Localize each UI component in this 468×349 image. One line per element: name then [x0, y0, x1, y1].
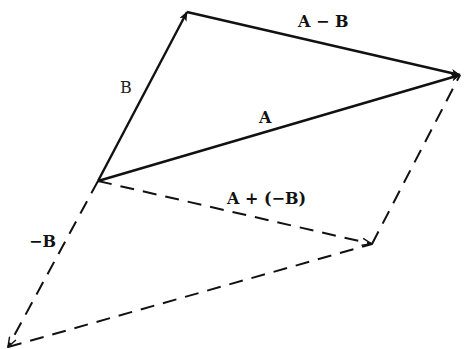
label-a-plus-negative-b: A + (−B)	[226, 189, 306, 208]
vector-negative-b	[8, 181, 98, 347]
label-negative-b: −B	[29, 232, 56, 251]
label-b: B	[120, 78, 132, 97]
label-a: A	[258, 108, 272, 127]
vector-b	[98, 12, 187, 181]
vector-a	[98, 75, 460, 181]
vector-a-shifted	[8, 244, 372, 347]
vector-diagram: B A A − B −B A + (−B)	[0, 0, 468, 349]
label-a-minus-b: A − B	[297, 12, 348, 31]
vector-b-shifted	[372, 75, 460, 244]
